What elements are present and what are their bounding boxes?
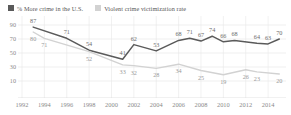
data-point-label: 20: [272, 78, 286, 84]
y-tick-label: 30: [2, 64, 16, 70]
gridlines: [18, 16, 286, 98]
x-tick-label: 1992: [10, 102, 34, 108]
data-point-label: 28: [149, 72, 163, 78]
x-tick-label: 2012: [234, 102, 258, 108]
legend-label-victimization: Violent crime victimization rate: [104, 5, 186, 12]
x-tick-label: 1998: [77, 102, 101, 108]
y-tick-label: 70: [2, 36, 16, 42]
data-point-label: 68: [228, 31, 242, 37]
legend-item-more-crime: % More crime in the U.S.: [8, 5, 83, 12]
legend-item-victimization: Violent crime victimization rate: [95, 5, 186, 12]
data-point-label: 53: [149, 42, 163, 48]
x-tick-label: 2004: [144, 102, 168, 108]
x-tick-label: 2006: [167, 102, 191, 108]
legend-label-more-crime: % More crime in the U.S.: [17, 5, 83, 12]
crime-trend-chart: % More crime in the U.S. Violent crime v…: [0, 0, 291, 115]
data-point-label: 25: [194, 75, 208, 81]
y-tick-label: 10: [2, 78, 16, 84]
x-tick-label: 1996: [55, 102, 79, 108]
data-point-label: 80: [26, 36, 40, 42]
chart-legend: % More crime in the U.S. Violent crime v…: [8, 2, 186, 14]
data-point-label: 71: [60, 29, 74, 35]
data-point-label: 54: [82, 41, 96, 47]
y-tick-label: 50: [2, 50, 16, 56]
data-point-label: 19: [216, 79, 230, 85]
data-point-label: 32: [127, 70, 141, 76]
legend-swatch-victimization: [95, 5, 101, 11]
x-tick-label: 2008: [189, 102, 213, 108]
x-tick-label: 1994: [32, 102, 56, 108]
data-point-label: 87: [26, 18, 40, 24]
data-point-label: 52: [82, 56, 96, 62]
data-point-label: 23: [250, 76, 264, 82]
data-point-label: 70: [272, 30, 286, 36]
plot-svg: [0, 14, 291, 98]
x-tick-label: 2014: [256, 102, 280, 108]
data-point-label: 71: [37, 42, 51, 48]
plot-area: 1030507090 87715441625368716774666864637…: [0, 14, 291, 98]
data-point-label: 41: [116, 50, 130, 56]
x-tick-label: 2000: [99, 102, 123, 108]
x-tick-label: 2002: [122, 102, 146, 108]
legend-swatch-more-crime: [8, 5, 14, 11]
x-tick-label: 2010: [211, 102, 235, 108]
y-tick-label: 90: [2, 22, 16, 28]
data-point-label: 62: [127, 36, 141, 42]
data-point-label: 34: [172, 68, 186, 74]
